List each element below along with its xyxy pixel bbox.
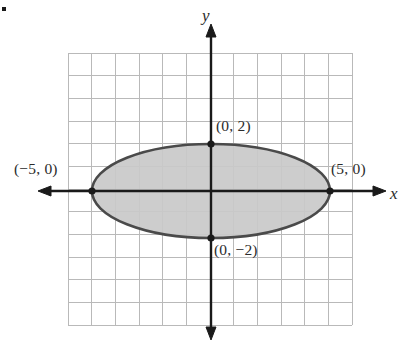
y-axis-label: y (202, 6, 210, 26)
point-label-left: (−5, 0) (14, 160, 58, 178)
x-axis-arrow-right (373, 186, 386, 196)
point-label-right: (5, 0) (331, 160, 366, 178)
point-label-bottom: (0, −2) (214, 241, 258, 259)
x-axis-label: x (390, 184, 398, 204)
axes (38, 24, 386, 340)
point-left (88, 187, 95, 194)
x-axis-arrow-left (38, 186, 51, 196)
point-top (207, 140, 214, 147)
point-right (326, 187, 333, 194)
point-label-top: (0, 2) (216, 117, 251, 135)
y-axis-arrow-down (206, 327, 216, 340)
